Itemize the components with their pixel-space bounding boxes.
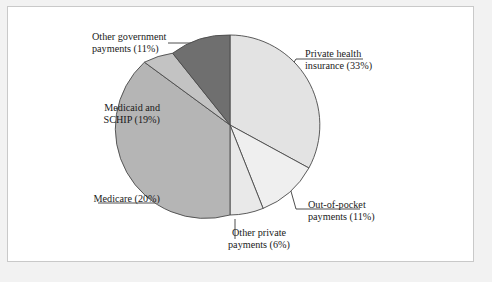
pie-label-out-of-pocket-payments: Out-of-pocket payments (11%) — [308, 199, 375, 224]
figure-frame: Private health insurance (33%) Out-of-po… — [7, 6, 474, 262]
pie-label-medicaid-and-schip: Medicaid and SCHIP (19%) — [68, 102, 160, 127]
pie-label-other-government-payments: Other government payments (11%) — [92, 31, 166, 56]
pie-label-medicare: Medicare (20%) — [60, 193, 160, 205]
pie-chart-svg — [8, 7, 475, 263]
figure-page: Private health insurance (33%) Out-of-po… — [0, 0, 492, 282]
pie-label-private-health-insurance: Private health insurance (33%) — [305, 48, 372, 73]
pie-label-other-private-payments: Other private payments (6%) — [204, 227, 314, 252]
pie-chart: Private health insurance (33%) Out-of-po… — [8, 7, 475, 263]
